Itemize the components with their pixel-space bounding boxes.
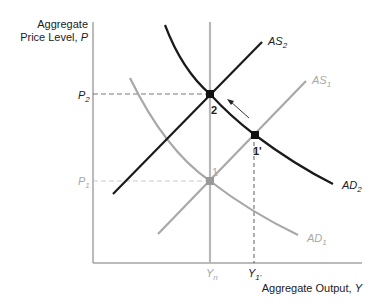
ad2-curve (165, 25, 333, 184)
as-ad-diagram: 2 1' 1 Aggregate Price Level, P Aggregat… (0, 0, 380, 304)
as2-curve (113, 42, 262, 194)
x-axis-label: Aggregate Output, Y (262, 282, 363, 294)
y-axis-label-line1: Aggregate (37, 18, 88, 30)
y1prime-tick-label: Y1' (248, 267, 262, 282)
point-1prime-label: 1' (253, 145, 262, 157)
ad1-label: AD1 (306, 232, 327, 247)
as2-label: AS2 (267, 35, 288, 50)
y-axis-label-line2: Price Level, P (20, 31, 89, 43)
as1-label: AS1 (311, 74, 331, 89)
yn-tick-label: Yn (206, 267, 218, 282)
point-1-label: 1 (212, 166, 218, 178)
point-2-marker (206, 90, 214, 98)
point-1prime-marker (251, 131, 259, 139)
as1-curve (158, 81, 306, 234)
ad2-label: AD2 (341, 179, 362, 194)
point-2-label: 2 (211, 104, 217, 116)
point-1-marker (206, 177, 214, 185)
movement-arrow (231, 102, 249, 118)
p2-tick-label: P2 (78, 89, 90, 104)
p1-tick-label: P1 (78, 175, 90, 190)
ad1-curve (130, 78, 298, 235)
